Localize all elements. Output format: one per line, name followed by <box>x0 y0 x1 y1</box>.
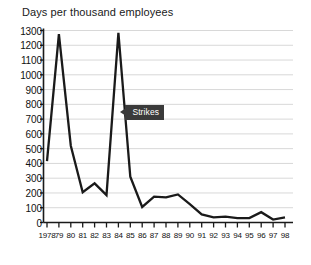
x-axis-tick-label: 81 <box>78 231 87 240</box>
x-axis-tick-label: 84 <box>114 231 123 240</box>
x-axis-tick-label: 85 <box>126 231 135 240</box>
y-axis-tick-label: 900 <box>26 84 42 95</box>
x-axis-tick-label: 91 <box>197 231 206 240</box>
x-axis-tick-label: 1978 <box>39 231 56 240</box>
x-axis-tick-label: 80 <box>67 231 76 240</box>
y-axis-tick-label: 1000 <box>20 69 42 80</box>
x-axis-tick-label: 94 <box>233 231 242 240</box>
x-axis-tick-label: 95 <box>245 231 254 240</box>
x-axis-tick-label: 97 <box>269 231 278 240</box>
x-axis-tick-label: 88 <box>162 231 171 240</box>
y-axis-tick-label: 0 <box>37 217 42 228</box>
y-axis-tick-label: 1300 <box>20 25 42 36</box>
x-axis-tick-label: 89 <box>174 231 183 240</box>
chart-canvas <box>0 0 311 265</box>
data-line-strikes <box>47 33 285 220</box>
y-axis-tick-label: 1200 <box>20 40 42 51</box>
x-axis-tick-label: 79 <box>55 231 64 240</box>
y-axis-tick-label: 800 <box>26 99 42 110</box>
y-axis-tick-label: 600 <box>26 128 42 139</box>
x-axis-tick-label: 90 <box>186 231 195 240</box>
y-axis-tick-label: 500 <box>26 143 42 154</box>
y-axis-tick-label: 400 <box>26 158 42 169</box>
x-axis-tick-label: 96 <box>257 231 266 240</box>
x-axis-tick-label: 93 <box>221 231 230 240</box>
strikes-callout-label: Strikes <box>125 105 164 120</box>
y-axis-tick-label: 200 <box>26 187 42 198</box>
x-axis-tick-label: 86 <box>138 231 147 240</box>
x-axis-tick-label: 83 <box>102 231 111 240</box>
y-axis-tick-label: 300 <box>26 173 42 184</box>
x-axis-tick-label: 92 <box>209 231 218 240</box>
y-axis-tick-label: 700 <box>26 114 42 125</box>
x-axis-tick-label: 87 <box>150 231 159 240</box>
y-axis-tick-label: 1100 <box>21 55 42 66</box>
x-axis-tick-label: 98 <box>281 231 290 240</box>
x-axis-tick-label: 82 <box>90 231 99 240</box>
plot-area <box>0 0 311 265</box>
strikes-line-chart: Days per thousand employees 010020030040… <box>0 0 311 265</box>
y-axis-tick-label: 100 <box>26 202 42 213</box>
